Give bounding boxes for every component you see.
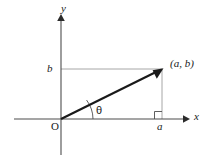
vector-components-diagram: y x O θ b a (a, b) [0, 0, 218, 163]
point-coordinates-label: (a, b) [170, 58, 194, 69]
a-value-label: a [157, 121, 163, 132]
y-axis-label: y [61, 3, 66, 14]
y-axis-arrowhead [57, 14, 65, 21]
b-value-label: b [47, 63, 53, 74]
x-axis-label: x [194, 111, 199, 122]
x-axis-arrowhead [183, 115, 190, 123]
angle-theta-label: θ [96, 105, 102, 116]
diagram-canvas [0, 0, 218, 163]
origin-label: O [51, 121, 59, 132]
vector-shaft [61, 71, 158, 119]
right-angle-marker [155, 112, 163, 120]
